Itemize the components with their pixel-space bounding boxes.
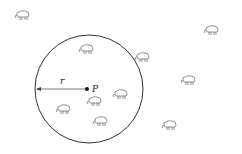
radius-label: r xyxy=(60,76,65,86)
sheep-group xyxy=(15,11,218,130)
radius-arrowhead-icon xyxy=(36,87,41,91)
diagram-canvas: P r xyxy=(0,0,242,154)
sheep-icon xyxy=(162,121,176,130)
sheep-icon xyxy=(56,105,70,114)
sheep-icon xyxy=(181,76,195,85)
sheep-icon xyxy=(204,26,218,35)
point-p xyxy=(85,87,89,91)
point-p-label: P xyxy=(91,84,99,94)
sheep-icon xyxy=(135,53,149,62)
sheep-icon xyxy=(15,11,29,20)
sheep-icon xyxy=(113,90,127,99)
sheep-icon xyxy=(87,97,101,106)
sheep-icon xyxy=(79,45,93,54)
sheep-icon xyxy=(93,117,107,126)
